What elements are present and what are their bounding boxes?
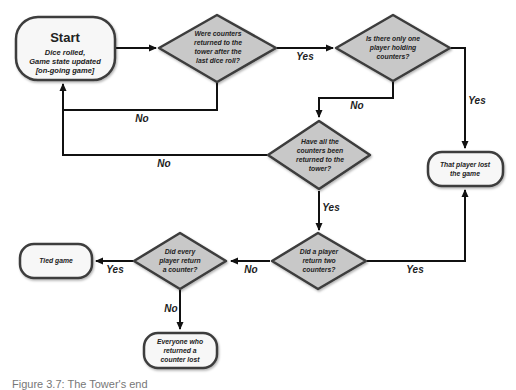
q1-line-4: last dice roll? xyxy=(196,57,241,64)
edges xyxy=(63,48,465,329)
label-q1-yes: Yes xyxy=(296,51,314,62)
q2-line-2: player holding xyxy=(369,44,417,52)
everyone-lost-line-3: counter lost xyxy=(161,356,201,363)
edge-q1-no xyxy=(63,82,217,110)
q2-line-1: Is there only one xyxy=(366,35,420,43)
node-everyone-lost: Everyone who returned a counter lost xyxy=(144,333,217,368)
edge-q4-yes xyxy=(367,190,465,261)
start-line-1: Dice rolled, xyxy=(45,48,85,57)
label-q5-no: No xyxy=(164,303,177,314)
q1-line-1: Were counters xyxy=(194,30,241,37)
everyone-lost-line-2: returned a xyxy=(163,347,196,354)
label-q3-yes: Yes xyxy=(322,202,340,213)
label-q2-yes: Yes xyxy=(468,95,486,106)
decision-every-player: Did every player return a counter? xyxy=(134,233,226,289)
decision-two-counters: Did a player return two counters? xyxy=(272,233,366,289)
q3-line-4: tower? xyxy=(309,165,332,172)
q5-line-1: Did every xyxy=(165,248,197,256)
node-player-lost: That player lost the game xyxy=(428,152,503,186)
everyone-lost-line-1: Everyone who xyxy=(157,338,203,346)
edge-q3-no xyxy=(63,84,267,155)
start-line-3: [on-going game] xyxy=(35,66,95,75)
node-tied-game: Tied game xyxy=(20,244,92,278)
start-title: Start xyxy=(50,30,80,45)
q5-line-2: player return xyxy=(158,257,201,265)
label-q3-no: No xyxy=(157,158,170,169)
q1-line-3: tower after the xyxy=(195,48,242,55)
decision-all-returned: Have all the counters been returned to t… xyxy=(268,121,370,189)
label-q4-no: No xyxy=(244,264,257,275)
player-lost-line-2: the game xyxy=(450,170,480,178)
start-line-2: Game state updated xyxy=(29,57,101,66)
q3-line-2: counters been xyxy=(297,147,343,154)
tied-line-1: Tied game xyxy=(39,257,73,265)
q4-line-3: counters? xyxy=(303,266,337,273)
decision-counters-returned: Were counters returned to the tower afte… xyxy=(159,15,276,82)
q4-line-1: Did a player xyxy=(300,248,339,256)
label-q2-no: No xyxy=(350,100,363,111)
q3-line-1: Have all the xyxy=(301,138,339,145)
q4-line-2: return two xyxy=(302,257,335,264)
player-lost-line-1: That player lost xyxy=(440,161,491,169)
q2-line-3: counters? xyxy=(377,53,411,60)
figure-caption: Figure 3.7: The Tower's end xyxy=(12,378,148,390)
q5-line-3: a counter? xyxy=(163,266,199,273)
label-q1-no: No xyxy=(135,113,148,124)
label-q5-yes: Yes xyxy=(106,264,124,275)
q1-line-2: returned to the xyxy=(194,39,242,46)
node-start: Start Dice rolled, Game state updated [o… xyxy=(16,17,115,80)
decision-one-player: Is there only one player holding counter… xyxy=(336,15,450,81)
edge-q2-yes xyxy=(451,48,465,148)
q3-line-3: returned to the xyxy=(296,156,344,163)
label-q4-yes: Yes xyxy=(406,264,424,275)
